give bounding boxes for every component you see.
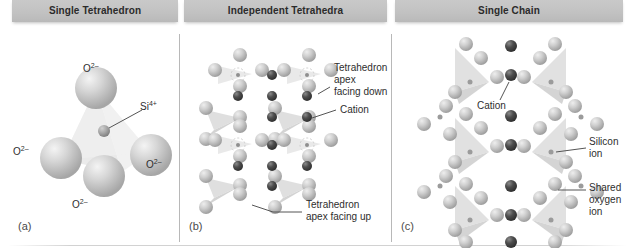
chain-c — [417, 37, 604, 248]
annotation-silicon-ion-c: Silicon ion — [589, 136, 618, 160]
silicate-structures-figure: Single Tetrahedron Independent Tetrahedr… — [0, 0, 635, 248]
annotation-cation-c: Cation — [477, 100, 506, 112]
panel-c-graphic — [0, 0, 635, 248]
annotation-shared-oxygen-ion-c: Shared oxygen ion — [589, 182, 635, 218]
cations-c — [505, 40, 517, 248]
